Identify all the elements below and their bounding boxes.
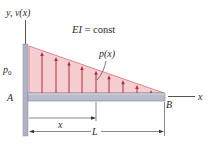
L-dimension-arrowhead-right [159, 130, 164, 133]
cantilever-beam-diagram: x y, v(x) EI = const p(x) p0 A B x L [0, 0, 211, 145]
fixed-wall-support [23, 44, 28, 136]
load-magnitude-label: p0 [2, 64, 12, 77]
point-b-label: B [166, 99, 172, 110]
L-dimension-arrowhead-left [29, 130, 34, 133]
x-dimension-label: x [57, 119, 63, 130]
stiffness-label: EI = const [71, 24, 115, 35]
y-axis-label: y, v(x) [5, 7, 31, 19]
x-axis-label: x [197, 91, 203, 102]
point-a-label: A [6, 92, 14, 103]
L-dimension-label: L [91, 126, 98, 137]
x-dimension-arrowhead [91, 116, 96, 119]
load-function-label: p(x) [98, 48, 116, 60]
